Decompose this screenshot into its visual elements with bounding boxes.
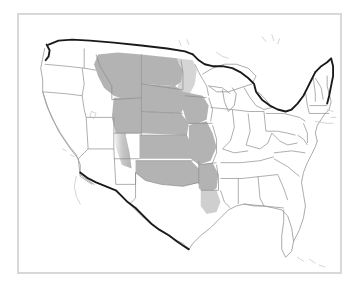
border-canada-west	[49, 40, 193, 55]
border-mi-oh-in	[232, 110, 264, 112]
detail-baja-coast	[74, 176, 80, 204]
us-map-figure: United States	[0, 0, 359, 295]
detail-long-island	[315, 121, 333, 123]
coast-atlantic-south	[294, 141, 318, 241]
border-sc-nc	[274, 159, 300, 177]
border-wa-or	[45, 64, 96, 70]
border-vt-nh	[313, 78, 315, 102]
border-al-ga	[258, 176, 264, 206]
border-mn-wi	[195, 64, 209, 96]
highlight-north-dakota	[141, 54, 182, 86]
border-or-id	[82, 68, 84, 96]
detail-lake-of-woods	[179, 40, 189, 46]
border-in-oh	[246, 113, 250, 145]
border-ia-il	[209, 98, 213, 122]
border-nh-me	[315, 78, 323, 100]
highlight-louisiana-partial	[201, 190, 221, 214]
border-nv-ut	[78, 117, 88, 158]
border-ga-sc	[278, 175, 288, 201]
border-nm-south	[116, 173, 136, 185]
highlight-oklahoma	[136, 161, 201, 187]
border-id-nv-ut	[82, 96, 112, 118]
coast-atlantic-mid	[315, 76, 331, 141]
us-map-svg	[19, 15, 340, 272]
border-il-in	[222, 110, 234, 149]
highlight-nebraska	[141, 111, 188, 135]
coast-lake-huron-erie	[244, 88, 272, 110]
border-ny-pa	[266, 113, 306, 121]
detail-florida-keys	[298, 257, 326, 267]
border-nc-va	[274, 151, 306, 153]
border-or-ca	[43, 92, 83, 96]
border-canada-maine	[315, 58, 333, 103]
highlight-kansas	[139, 135, 192, 159]
coast-gulf-texas	[130, 204, 245, 249]
border-az-nm	[114, 149, 116, 184]
highlight-arkansas	[199, 163, 219, 195]
detail-canada-marks	[262, 35, 280, 44]
border-il-in-ky	[222, 149, 248, 153]
map-frame-border: United States	[17, 13, 342, 274]
detail-superior-north	[217, 52, 229, 58]
border-oh-ky-wv	[246, 133, 272, 149]
border-wi-il	[211, 108, 233, 110]
highlight-montana	[94, 52, 141, 99]
border-ny-vt-ma	[305, 92, 309, 114]
border-md-de-nj	[298, 135, 308, 145]
coast-gulf-east	[244, 204, 293, 257]
border-wv-pa-md	[266, 131, 296, 135]
border-wi-mi	[209, 86, 231, 94]
border-nv-ca	[43, 92, 79, 159]
border-ky-tn	[220, 157, 273, 163]
border-tn-ms-al-ga	[220, 175, 277, 179]
border-nm-tx	[130, 173, 136, 205]
border-puget-sound-detail	[46, 45, 50, 61]
highlight-missouri	[189, 121, 217, 164]
border-oh-pa	[264, 111, 266, 131]
border-ms-la-gulf	[220, 190, 230, 208]
